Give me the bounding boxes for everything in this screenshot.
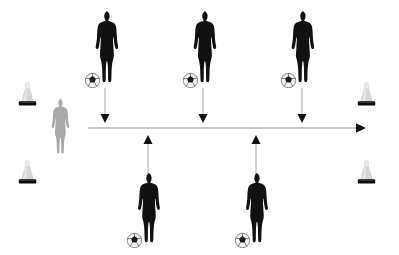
ball-top-2 [182,72,199,89]
drill-diagram [0,0,399,255]
cone-top-right [351,78,382,109]
ball-bottom-2 [234,232,251,249]
ball-top-3 [280,72,297,89]
player-top-2 [190,10,224,88]
arrow-pass-up-2 [252,135,261,175]
ball-top-1 [84,72,101,89]
player-start-gray [46,98,78,158]
player-top-3 [288,10,322,88]
cone-top-left [12,78,43,109]
ball-bottom-1 [126,232,143,249]
arrow-pass-up-1 [144,135,153,175]
arrow-pass-down-2 [199,88,208,123]
arrow-pass-down-1 [101,88,110,123]
arrow-pass-down-3 [298,88,307,123]
player-top-1 [92,10,126,88]
arrow-run-path [88,123,366,133]
cone-bottom-left [12,156,43,187]
player-bottom-2 [242,172,276,248]
player-bottom-1 [134,172,168,248]
cone-bottom-right [351,156,382,187]
